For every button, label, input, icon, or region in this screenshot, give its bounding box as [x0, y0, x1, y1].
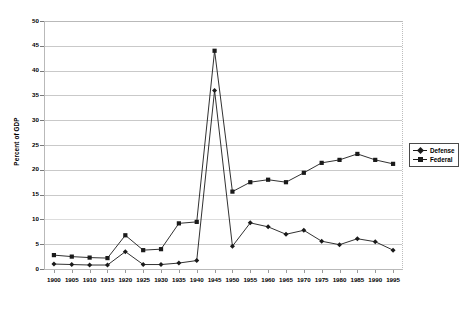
gridline: [45, 219, 402, 220]
x-tick-mark: [286, 270, 287, 273]
x-tick-mark: [72, 270, 73, 273]
x-tick-mark: [197, 270, 198, 273]
x-tick-mark: [90, 270, 91, 273]
x-tick-mark: [179, 270, 180, 273]
y-tick-label: 40: [9, 67, 39, 73]
chart-legend: Defense Federal: [409, 143, 459, 167]
y-tick-label: 30: [9, 117, 39, 123]
gridline: [45, 170, 402, 171]
y-tick-mark: [40, 95, 44, 96]
x-tick-mark: [125, 270, 126, 273]
legend-label-defense: Defense: [428, 147, 455, 154]
y-tick-label: 50: [9, 18, 39, 24]
y-tick-mark: [40, 120, 44, 121]
y-tick-mark: [40, 145, 44, 146]
y-tick-mark: [40, 195, 44, 196]
gridline: [45, 195, 402, 196]
y-tick-label: 10: [9, 216, 39, 222]
x-tick-mark: [340, 270, 341, 273]
x-tick-mark: [232, 270, 233, 273]
x-tick-mark: [393, 270, 394, 273]
x-tick-mark: [215, 270, 216, 273]
x-tick-mark: [357, 270, 358, 273]
x-tick-mark: [304, 270, 305, 273]
y-tick-mark: [40, 46, 44, 47]
y-tick-label: 35: [9, 92, 39, 98]
legend-item-defense[interactable]: Defense: [412, 146, 455, 155]
gridline: [45, 120, 402, 121]
legend-item-federal[interactable]: Federal: [412, 155, 455, 164]
y-tick-mark: [40, 21, 44, 22]
y-tick-label: 5: [9, 241, 39, 247]
x-tick-mark: [250, 270, 251, 273]
x-tick-mark: [143, 270, 144, 273]
gridline: [45, 244, 402, 245]
gridline: [45, 71, 402, 72]
y-tick-label: 20: [9, 166, 39, 172]
y-tick-label: 45: [9, 42, 39, 48]
y-tick-mark: [40, 71, 44, 72]
y-tick-label: 0: [9, 266, 39, 272]
x-tick-label: 1995: [378, 276, 408, 283]
legend-label-federal: Federal: [428, 156, 452, 163]
y-tick-mark: [40, 269, 44, 270]
x-tick-mark: [54, 270, 55, 273]
y-tick-label: 15: [9, 191, 39, 197]
gridline: [45, 95, 402, 96]
chart-container: Percent of GDP 05101520253035404550 1900…: [0, 0, 473, 314]
y-tick-mark: [40, 244, 44, 245]
plot-area: [44, 21, 403, 270]
federal-marker-icon: [412, 155, 428, 164]
x-tick-mark: [268, 270, 269, 273]
gridline: [45, 145, 402, 146]
x-tick-mark: [322, 270, 323, 273]
gridline: [45, 46, 402, 47]
y-tick-mark: [40, 219, 44, 220]
x-tick-mark: [107, 270, 108, 273]
x-tick-mark: [375, 270, 376, 273]
y-tick-mark: [40, 170, 44, 171]
defense-marker-icon: [412, 146, 428, 155]
y-tick-label: 25: [9, 142, 39, 148]
x-tick-mark: [161, 270, 162, 273]
